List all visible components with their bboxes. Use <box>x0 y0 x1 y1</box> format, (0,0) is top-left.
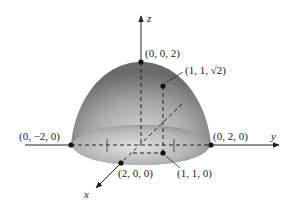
point-top <box>138 59 143 64</box>
point-x-pos <box>118 160 123 165</box>
label-base-point: (1, 1, 0) <box>177 167 212 180</box>
label-top: (0, 0, 2) <box>145 47 180 60</box>
label-y-neg: (0, −2, 0) <box>19 130 60 143</box>
dome-diagram: z y x (0, 0, 2) (1, 1, √2) (0, −2, 0) (0… <box>0 0 289 209</box>
label-surface-point: (1, 1, √2) <box>185 64 226 77</box>
y-axis-label: y <box>270 130 276 142</box>
label-y-pos: (0, 2, 0) <box>213 130 248 143</box>
x-axis-label: x <box>83 188 89 200</box>
z-axis-label: z <box>146 12 152 24</box>
point-y-neg <box>68 142 73 147</box>
label-x-pos: (2, 0, 0) <box>118 167 153 180</box>
point-surface <box>160 83 165 88</box>
point-base <box>160 150 165 155</box>
point-y-pos <box>208 142 213 147</box>
